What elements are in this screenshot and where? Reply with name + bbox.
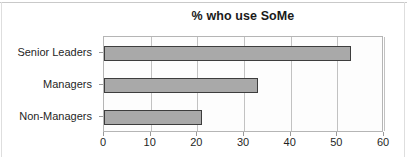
plot-area: [103, 36, 383, 132]
right-divider: [404, 2, 405, 157]
x-axis-tick-label: 30: [223, 136, 263, 148]
bar: [104, 78, 258, 93]
y-axis-labels: Senior LeadersManagersNon-Managers: [0, 36, 98, 132]
y-axis-tick: [99, 52, 103, 53]
bar: [104, 110, 202, 125]
x-axis-tick: [103, 132, 104, 136]
x-axis-tick-label: 10: [130, 136, 170, 148]
y-axis-tick-label: Managers: [43, 77, 92, 92]
x-axis-tick-label: 50: [316, 136, 356, 148]
y-axis-tick: [99, 116, 103, 117]
chart-title: % who use SoMe: [103, 9, 383, 23]
bars-layer: [104, 37, 382, 131]
x-axis-tick: [150, 132, 151, 136]
y-axis-tick-label: Senior Leaders: [17, 45, 92, 60]
x-axis-labels: 0102030405060: [0, 136, 407, 156]
bar-chart-figure: % who use SoMe Senior LeadersManagersNon…: [0, 0, 407, 162]
y-axis-tick-label: Non-Managers: [19, 109, 92, 124]
y-axis-tick: [99, 84, 103, 85]
bar: [104, 46, 351, 61]
top-divider: [0, 2, 407, 3]
gridline: [384, 37, 385, 131]
x-axis-tick: [196, 132, 197, 136]
x-axis-tick: [383, 132, 384, 136]
x-axis-tick-label: 60: [363, 136, 403, 148]
x-axis-tick-label: 0: [83, 136, 123, 148]
x-axis-tick: [290, 132, 291, 136]
x-axis-tick: [243, 132, 244, 136]
x-axis-tick-label: 40: [270, 136, 310, 148]
x-axis-tick-label: 20: [176, 136, 216, 148]
x-axis-tick: [336, 132, 337, 136]
